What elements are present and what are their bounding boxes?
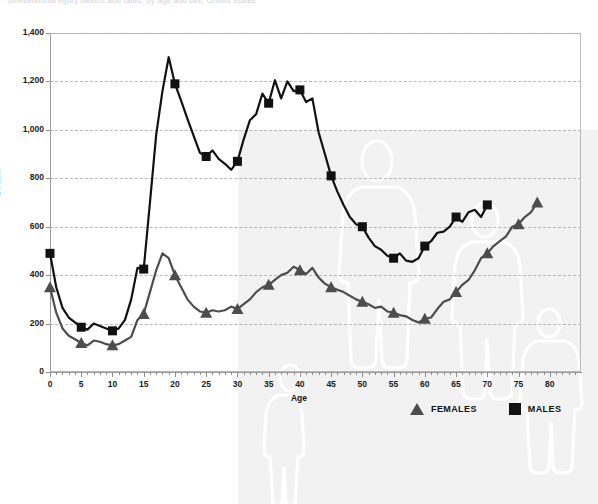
data-point-marker: [108, 326, 117, 335]
data-point-marker: [295, 85, 304, 94]
legend-label-females: FEMALES: [431, 404, 477, 414]
data-point-marker: [233, 157, 242, 166]
data-point-marker: [531, 197, 543, 208]
legend-item-females[interactable]: FEMALES: [410, 403, 477, 415]
legend-item-males[interactable]: MALES: [509, 403, 562, 415]
data-point-marker: [169, 269, 181, 280]
series-markers-males: [46, 79, 492, 335]
chart-canvas: Unintentional injury deaths and rates, b…: [0, 0, 598, 504]
data-point-marker: [264, 99, 273, 108]
legend-label-males: MALES: [528, 404, 562, 414]
chart-legend: FEMALES MALES: [410, 403, 561, 415]
data-point-marker: [327, 171, 336, 180]
data-point-marker: [420, 242, 429, 251]
data-point-marker: [452, 213, 461, 222]
data-point-marker: [75, 337, 87, 348]
triangle-marker-icon: [410, 403, 424, 415]
data-point-marker: [44, 281, 56, 292]
square-marker-icon: [509, 403, 521, 415]
data-point-marker: [77, 323, 86, 332]
data-point-marker: [294, 264, 306, 275]
data-point-marker: [139, 265, 148, 274]
data-point-marker: [46, 249, 55, 258]
data-point-marker: [170, 79, 179, 88]
data-point-marker: [202, 152, 211, 161]
data-series-layer: [0, 0, 598, 504]
data-point-marker: [389, 254, 398, 263]
data-point-marker: [483, 200, 492, 209]
data-point-marker: [325, 281, 337, 292]
data-point-marker: [138, 308, 150, 319]
data-point-marker: [358, 222, 367, 231]
